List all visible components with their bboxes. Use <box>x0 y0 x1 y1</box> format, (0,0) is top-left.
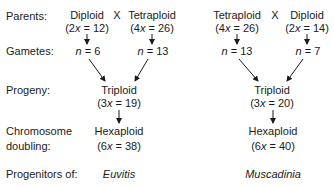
arrows-layer <box>0 0 334 186</box>
arrow-diagonal-icon <box>239 59 258 81</box>
arrow-diagonal-icon <box>89 59 105 81</box>
arrow-diagonal-icon <box>135 59 148 81</box>
arrow-diagonal-icon <box>287 59 303 81</box>
